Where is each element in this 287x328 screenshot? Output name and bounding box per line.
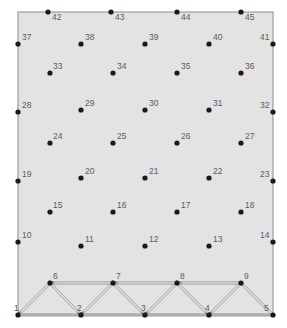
node-label-14: 14 (260, 231, 269, 240)
node-label-34: 34 (117, 62, 126, 71)
mesh-node-6[interactable] (47, 280, 52, 285)
mesh-node-40[interactable] (206, 41, 211, 46)
mesh-node-18[interactable] (238, 209, 243, 214)
mesh-node-12[interactable] (142, 243, 147, 248)
node-label-38: 38 (85, 33, 94, 42)
node-label-3: 3 (141, 304, 146, 313)
mesh-node-3[interactable] (142, 312, 147, 317)
mesh-node-26[interactable] (174, 140, 179, 145)
node-label-42: 42 (52, 13, 61, 22)
node-label-27: 27 (245, 132, 254, 141)
mesh-node-25[interactable] (110, 140, 115, 145)
mesh-node-33[interactable] (47, 70, 52, 75)
node-label-24: 24 (53, 132, 62, 141)
mesh-node-44[interactable] (174, 9, 179, 14)
node-label-4: 4 (205, 304, 210, 313)
node-label-39: 39 (149, 33, 158, 42)
mesh-node-16[interactable] (110, 209, 115, 214)
mesh-node-15[interactable] (47, 209, 52, 214)
mesh-node-36[interactable] (238, 70, 243, 75)
node-label-10: 10 (22, 231, 31, 240)
mesh-node-20[interactable] (78, 175, 83, 180)
node-label-8: 8 (180, 272, 185, 281)
node-label-32: 32 (260, 101, 269, 110)
mesh-node-22[interactable] (206, 175, 211, 180)
mesh-node-7[interactable] (110, 280, 115, 285)
node-label-23: 23 (260, 170, 269, 179)
mesh-node-39[interactable] (142, 41, 147, 46)
mesh-node-9[interactable] (238, 280, 243, 285)
node-label-31: 31 (213, 99, 222, 108)
mesh-node-29[interactable] (78, 107, 83, 112)
mesh-node-27[interactable] (238, 140, 243, 145)
node-label-11: 11 (85, 235, 94, 244)
mesh-node-23[interactable] (270, 178, 275, 183)
node-label-36: 36 (245, 62, 254, 71)
mesh-node-37[interactable] (15, 41, 20, 46)
mesh-node-31[interactable] (206, 107, 211, 112)
mesh-node-2[interactable] (78, 312, 83, 317)
node-label-7: 7 (116, 272, 121, 281)
node-label-18: 18 (245, 201, 254, 210)
mesh-node-5[interactable] (270, 312, 275, 317)
node-label-22: 22 (213, 167, 222, 176)
mesh-node-14[interactable] (270, 239, 275, 244)
mesh-node-32[interactable] (270, 109, 275, 114)
mesh-node-28[interactable] (15, 109, 20, 114)
node-label-20: 20 (85, 167, 94, 176)
mesh-node-17[interactable] (174, 209, 179, 214)
node-label-21: 21 (149, 167, 158, 176)
node-label-13: 13 (213, 235, 222, 244)
node-label-9: 9 (244, 272, 249, 281)
node-label-37: 37 (22, 33, 31, 42)
node-label-29: 29 (85, 99, 94, 108)
node-label-17: 17 (181, 201, 190, 210)
node-label-35: 35 (181, 62, 190, 71)
node-label-41: 41 (260, 33, 269, 42)
node-label-40: 40 (213, 33, 222, 42)
node-label-43: 43 (115, 13, 124, 22)
node-label-16: 16 (117, 201, 126, 210)
mesh-node-19[interactable] (15, 178, 20, 183)
node-label-2: 2 (77, 304, 82, 313)
node-label-45: 45 (245, 13, 254, 22)
mesh-node-4[interactable] (206, 312, 211, 317)
node-label-44: 44 (181, 13, 190, 22)
node-label-28: 28 (22, 101, 31, 110)
mesh-node-10[interactable] (15, 239, 20, 244)
mesh-node-30[interactable] (142, 107, 147, 112)
mesh-node-11[interactable] (78, 243, 83, 248)
mesh-node-1[interactable] (15, 312, 20, 317)
mesh-node-35[interactable] (174, 70, 179, 75)
mesh-node-13[interactable] (206, 243, 211, 248)
mesh-node-41[interactable] (270, 41, 275, 46)
mesh-node-21[interactable] (142, 175, 147, 180)
mesh-node-24[interactable] (47, 140, 52, 145)
diagram-canvas: 1234567891011121314151617181920212223242… (0, 0, 287, 328)
node-label-12: 12 (149, 235, 158, 244)
mesh-node-43[interactable] (108, 9, 113, 14)
node-label-1: 1 (14, 304, 19, 313)
domain-layer (18, 12, 273, 315)
node-label-19: 19 (22, 170, 31, 179)
node-label-15: 15 (53, 201, 62, 210)
node-label-30: 30 (149, 99, 158, 108)
mesh-node-45[interactable] (238, 9, 243, 14)
node-label-25: 25 (117, 132, 126, 141)
domain-boundary-rect (18, 12, 273, 315)
mesh-node-34[interactable] (110, 70, 115, 75)
mesh-node-42[interactable] (45, 9, 50, 14)
mesh-node-38[interactable] (78, 41, 83, 46)
node-label-5: 5 (264, 304, 269, 313)
mesh-node-8[interactable] (174, 280, 179, 285)
node-label-26: 26 (181, 132, 190, 141)
node-label-33: 33 (53, 62, 62, 71)
node-label-6: 6 (53, 272, 58, 281)
